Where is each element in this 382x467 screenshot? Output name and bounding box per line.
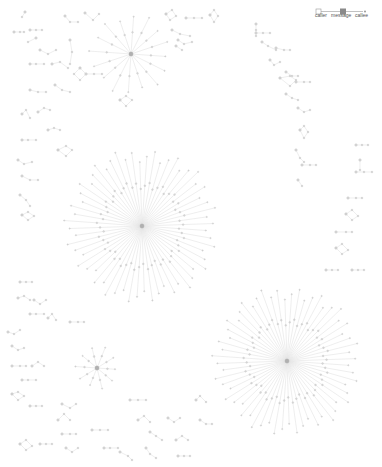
graph-node[interactable]	[199, 395, 201, 397]
graph-node[interactable]	[301, 164, 304, 167]
graph-node[interactable]	[33, 299, 36, 302]
graph-node[interactable]	[321, 379, 323, 381]
graph-node[interactable]	[59, 61, 61, 63]
graph-node[interactable]	[139, 161, 140, 162]
graph-node[interactable]	[107, 429, 109, 431]
graph-node[interactable]	[348, 365, 349, 366]
graph-node[interactable]	[103, 447, 106, 450]
graph-node[interactable]	[19, 281, 22, 284]
graph-node[interactable]	[138, 266, 140, 268]
graph-node[interactable]	[83, 254, 84, 255]
graph-node[interactable]	[69, 228, 70, 229]
graph-node[interactable]	[103, 77, 104, 78]
graph-node[interactable]	[119, 75, 121, 77]
graph-node[interactable]	[303, 111, 305, 113]
graph-node[interactable]	[217, 363, 218, 364]
graph-node[interactable]	[27, 219, 29, 221]
graph-node[interactable]	[154, 151, 155, 152]
graph-node[interactable]	[23, 31, 25, 33]
graph-node[interactable]	[17, 399, 19, 401]
graph-node[interactable]	[115, 36, 117, 38]
graph-node[interactable]	[347, 249, 349, 251]
graph-node[interactable]	[283, 49, 285, 51]
graph-node[interactable]	[37, 111, 40, 114]
graph-node[interactable]	[105, 347, 106, 348]
graph-node[interactable]	[114, 67, 116, 69]
graph-node[interactable]	[179, 170, 180, 171]
graph-node[interactable]	[43, 63, 45, 65]
graph-node[interactable]	[113, 357, 114, 358]
graph-node[interactable]	[155, 435, 157, 437]
graph-node[interactable]	[251, 382, 253, 384]
graph-node[interactable]	[178, 228, 180, 230]
graph-node[interactable]	[347, 401, 348, 402]
graph-node[interactable]	[37, 361, 39, 363]
graph-node[interactable]	[25, 439, 27, 441]
graph-node[interactable]	[295, 398, 297, 400]
graph-node[interactable]	[107, 368, 109, 370]
graph-node[interactable]	[207, 202, 208, 203]
graph-node[interactable]	[322, 355, 324, 357]
graph-node[interactable]	[47, 129, 50, 132]
graph-node[interactable]	[340, 308, 341, 309]
graph-node[interactable]	[61, 433, 64, 436]
graph-node[interactable]	[361, 144, 363, 146]
graph-node[interactable]	[31, 161, 33, 163]
graph-node[interactable]	[213, 21, 215, 23]
graph-node[interactable]	[249, 374, 251, 376]
graph-node[interactable]	[35, 139, 37, 141]
graph-node[interactable]	[222, 384, 223, 385]
graph-node[interactable]	[21, 16, 23, 18]
graph-node[interactable]	[297, 107, 300, 110]
graph-node[interactable]	[165, 56, 166, 57]
graph-node[interactable]	[41, 405, 43, 407]
graph-node[interactable]	[347, 392, 348, 393]
graph-node[interactable]	[21, 175, 24, 178]
graph-node[interactable]	[64, 15, 67, 18]
graph-node[interactable]	[177, 455, 180, 458]
graph-node[interactable]	[74, 213, 75, 214]
graph-node[interactable]	[171, 250, 173, 252]
graph-node[interactable]	[125, 159, 126, 160]
graph-node[interactable]	[129, 399, 132, 402]
graph-node[interactable]	[352, 372, 353, 373]
graph-node[interactable]	[35, 63, 37, 65]
graph-node[interactable]	[238, 320, 239, 321]
graph-node[interactable]	[105, 374, 107, 376]
graph-node[interactable]	[246, 362, 248, 364]
graph-node[interactable]	[51, 443, 53, 445]
graph-node[interactable]	[260, 326, 262, 328]
graph-node[interactable]	[342, 333, 343, 334]
graph-node[interactable]	[315, 384, 317, 386]
graph-node[interactable]	[79, 378, 80, 379]
graph-node[interactable]	[25, 199, 27, 201]
graph-node[interactable]	[31, 445, 33, 447]
graph-node[interactable]	[73, 73, 75, 75]
graph-node[interactable]	[47, 53, 49, 55]
graph-node[interactable]	[84, 366, 86, 368]
graph-node[interactable]	[297, 179, 300, 182]
graph-node[interactable]	[169, 19, 171, 21]
graph-node[interactable]	[111, 44, 113, 46]
graph-node[interactable]	[25, 365, 27, 367]
graph-node[interactable]	[131, 459, 133, 461]
graph-node[interactable]	[125, 95, 127, 97]
graph-node[interactable]	[192, 268, 193, 269]
graph-node[interactable]	[285, 71, 288, 74]
graph-node[interactable]	[205, 268, 206, 269]
graph-node[interactable]	[279, 77, 281, 79]
graph-node[interactable]	[298, 394, 300, 396]
graph-node[interactable]	[266, 399, 268, 401]
graph-node[interactable]	[183, 43, 185, 45]
graph-node[interactable]	[279, 402, 281, 404]
graph-node[interactable]	[189, 455, 191, 457]
graph-node[interactable]	[144, 291, 145, 292]
graph-node[interactable]	[273, 64, 275, 66]
graph-node[interactable]	[85, 73, 88, 76]
graph-node[interactable]	[97, 37, 98, 38]
graph-node[interactable]	[335, 402, 336, 403]
graph-node[interactable]	[49, 109, 51, 111]
graph-node[interactable]	[181, 49, 183, 51]
graph-node[interactable]	[27, 379, 29, 381]
graph-node[interactable]	[349, 337, 350, 338]
